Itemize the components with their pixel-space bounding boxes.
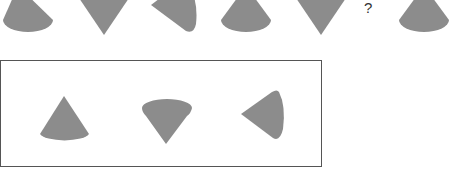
cone-inverted-shape — [75, 0, 135, 40]
cone-inverted-shape — [292, 0, 352, 40]
cone-sideways-shape — [148, 0, 208, 40]
cone-upright-shape — [0, 0, 60, 40]
question-mark: ? — [364, 0, 372, 15]
option-1-cone-upright[interactable] — [1, 61, 321, 166]
answer-options-box — [0, 60, 322, 167]
cone-upright-shape — [220, 0, 280, 40]
cone-upright-shape — [396, 0, 454, 40]
sequence-row — [0, 0, 454, 40]
